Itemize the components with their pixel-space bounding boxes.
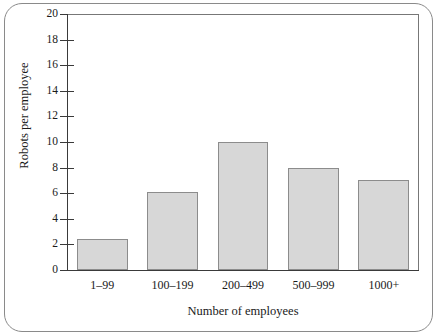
y-axis-tick-label: 0	[12, 264, 58, 276]
x-axis-category-labels: 1–99100–199200–499500–9991000+	[67, 278, 419, 298]
y-axis-title: Robots per employee	[17, 16, 32, 216]
bar	[358, 180, 409, 270]
x-axis-category-label: 1000+	[349, 278, 419, 293]
x-axis-category-label: 200–499	[208, 278, 278, 293]
bar-chart-figure: 02468101214161820 1–99100–199200–499500–…	[0, 0, 437, 336]
x-axis-title: Number of employees	[67, 304, 419, 319]
bar	[218, 142, 269, 270]
bar	[288, 168, 339, 270]
bar	[147, 192, 198, 270]
x-axis-category-label: 500–999	[278, 278, 348, 293]
bar-series	[67, 14, 419, 270]
x-axis-category-label: 1–99	[67, 278, 137, 293]
bar	[77, 239, 128, 270]
x-axis-category-label: 100–199	[137, 278, 207, 293]
y-axis-tick-label: 2	[12, 238, 58, 250]
x-axis-line	[67, 270, 419, 271]
